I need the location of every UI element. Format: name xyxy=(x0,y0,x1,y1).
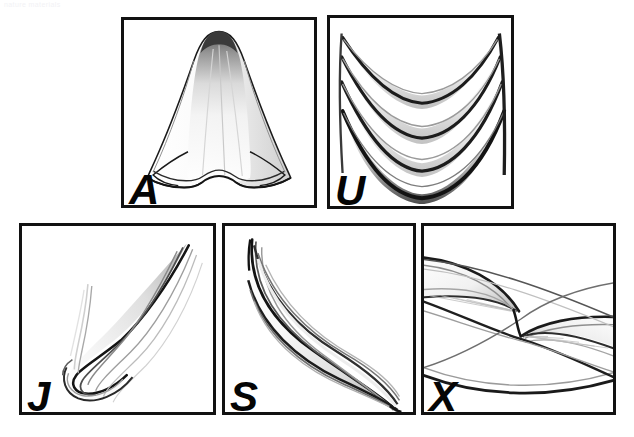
panel-x-label: X xyxy=(429,376,456,415)
panel-s-stroke-low-1 xyxy=(248,280,397,410)
panel-a: A xyxy=(121,17,317,208)
panel-s: S xyxy=(222,223,416,415)
panel-a-label: A xyxy=(129,169,158,208)
figure-root: nature materials xyxy=(0,0,634,437)
panel-j: J xyxy=(19,223,216,415)
panel-s-label: S xyxy=(230,376,257,415)
panel-x-lobe-upper-left xyxy=(424,255,519,313)
panel-j-artwork xyxy=(22,226,213,412)
watermark-text: nature materials xyxy=(4,1,61,8)
panel-u-edge-left xyxy=(340,34,343,174)
panel-u-edge-right xyxy=(499,34,504,175)
panel-x: X xyxy=(421,223,616,415)
panel-u-label: U xyxy=(335,170,364,209)
panel-j-label: J xyxy=(27,376,49,415)
panel-u: U xyxy=(327,15,514,209)
